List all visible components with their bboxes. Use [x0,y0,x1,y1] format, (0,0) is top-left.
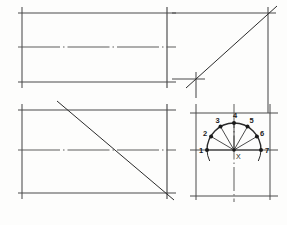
point-label-4: 4 [233,111,238,120]
center-dot-x [232,148,236,152]
mitre-45-degree-line [186,6,277,88]
lower-view-diagonal [57,101,174,200]
plan-view-lower [18,101,176,200]
division-dot-2 [209,135,213,139]
technical-drawing-sheet: 1 2 3 4 5 6 7 X [0,0,287,225]
point-label-7: 7 [265,146,269,155]
semicircle-arch-view: 1 2 3 4 5 6 7 X [190,104,278,202]
center-label-x: X [236,153,241,160]
division-dot-5 [246,125,250,129]
point-label-3: 3 [216,116,220,125]
point-label-2: 2 [203,129,207,138]
division-dot-7 [259,148,263,152]
division-dot-1 [205,148,209,152]
point-label-1: 1 [199,146,203,155]
division-dot-6 [255,135,259,139]
drawing-canvas: 1 2 3 4 5 6 7 X [0,0,287,225]
arch-radial-lines [207,123,261,150]
point-label-6: 6 [260,129,264,138]
plan-view-upper [18,7,176,88]
division-dot-4 [232,121,236,125]
projection-mitre-view [172,6,277,113]
point-label-5: 5 [250,116,254,125]
division-dot-3 [219,125,223,129]
